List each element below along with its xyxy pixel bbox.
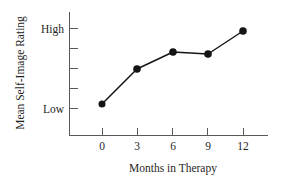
data-point-0	[99, 101, 106, 108]
data-point-12	[239, 27, 247, 35]
data-point-6	[169, 48, 177, 56]
x-axis-title: Months in Therapy	[129, 162, 217, 175]
chart-figure: High Low 0 3 6 9 12 Months in Therapy Me…	[0, 0, 294, 183]
x-tick-label-9: 9	[205, 140, 211, 152]
data-point-9	[204, 50, 212, 58]
data-series-line	[102, 31, 243, 104]
x-tick-label-6: 6	[170, 140, 176, 152]
y-axis-title: Mean Self-Image Rating	[14, 16, 27, 130]
x-tick-label-0: 0	[99, 140, 105, 152]
x-tick-label-12: 12	[237, 140, 249, 152]
data-point-3	[133, 65, 141, 73]
x-tick-label-3: 3	[134, 140, 140, 152]
line-chart: High Low 0 3 6 9 12 Months in Therapy Me…	[0, 0, 294, 183]
y-tick-label-low: Low	[43, 103, 65, 115]
y-tick-label-high: High	[41, 23, 64, 36]
